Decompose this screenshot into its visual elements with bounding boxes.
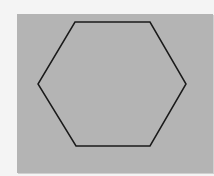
hexagon-shape [38, 22, 186, 146]
hexagon-diagram [0, 0, 214, 176]
